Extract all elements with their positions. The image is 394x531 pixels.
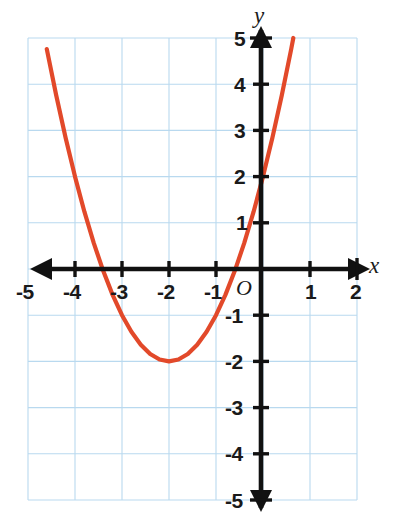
x-tick-label-neg3: -3 — [110, 281, 128, 302]
origin-label: O — [236, 277, 252, 299]
coordinate-graph-figure: -5 -4 -3 -2 -1 1 2 5 4 3 2 1 -1 -2 -3 -4… — [0, 0, 394, 531]
y-tick-label-neg2: -2 — [225, 351, 243, 372]
x-axis-label: x — [369, 254, 379, 277]
y-tick-label-pos1: 1 — [236, 212, 247, 233]
graph-canvas — [0, 0, 394, 531]
x-tick-label-neg2: -2 — [157, 281, 175, 302]
y-tick-label-pos4: 4 — [234, 74, 245, 95]
x-tick-label-neg5: -5 — [16, 281, 34, 302]
y-tick-label-pos3: 3 — [234, 120, 245, 141]
y-tick-label-neg5: -5 — [225, 490, 243, 511]
x-tick-label-neg1: -1 — [204, 281, 222, 302]
parabola-curve — [47, 38, 294, 361]
y-tick-label-neg3: -3 — [225, 397, 243, 418]
x-tick-label-pos2: 2 — [350, 281, 361, 302]
y-tick-label-neg4: -4 — [225, 443, 243, 464]
y-tick-label-pos5: 5 — [234, 28, 245, 49]
axis-lines — [36, 30, 364, 508]
y-tick-label-pos2: 2 — [234, 166, 245, 187]
x-axis-right-arrow-icon — [348, 258, 370, 280]
x-axis-left-arrow-icon — [30, 258, 52, 280]
x-tick-label-neg4: -4 — [63, 281, 81, 302]
y-axis-label: y — [254, 4, 264, 27]
x-tick-label-pos1: 1 — [305, 281, 316, 302]
y-tick-label-neg1: -1 — [225, 305, 243, 326]
